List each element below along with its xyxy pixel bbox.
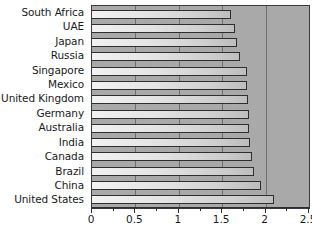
category-label: South Africa: [0, 5, 88, 19]
category-label: United Kingdom: [0, 92, 88, 106]
axis-tick-label: 1.5: [213, 214, 230, 225]
axis-tick-minor: [286, 207, 287, 211]
category-label: Canada: [0, 149, 88, 163]
category-label: United States: [0, 192, 88, 206]
bar: [91, 38, 237, 47]
axis-tick-minor: [156, 207, 157, 211]
category-label: China: [0, 178, 88, 192]
bar-chart: South AfricaUAEJapanRussiaSingaporeMexic…: [0, 0, 312, 231]
axis-tick-label: 0: [88, 214, 95, 225]
bar: [91, 167, 254, 176]
bar: [91, 24, 235, 33]
axis-tick-label: 1: [174, 214, 181, 225]
category-label: Australia: [0, 120, 88, 134]
bar: [91, 181, 261, 190]
bar-row: [92, 50, 309, 64]
bar-row: [92, 36, 309, 50]
bars-layer: [92, 6, 309, 208]
bar: [91, 138, 250, 147]
category-axis: South AfricaUAEJapanRussiaSingaporeMexic…: [0, 5, 88, 207]
axis-tick-minor: [200, 207, 201, 211]
bar-row: [92, 7, 309, 21]
category-label: Brazil: [0, 164, 88, 178]
bar: [91, 81, 247, 90]
bar-row: [92, 136, 309, 150]
bar-row: [92, 121, 309, 135]
bar-row: [92, 164, 309, 178]
category-label: UAE: [0, 19, 88, 33]
bar-row: [92, 64, 309, 78]
bar: [91, 152, 252, 161]
bar-row: [92, 150, 309, 164]
axis-tick-label: 0.5: [126, 214, 143, 225]
bar: [91, 52, 240, 61]
category-label: Japan: [0, 34, 88, 48]
bar-row: [92, 107, 309, 121]
bar-row: [92, 93, 309, 107]
category-label: India: [0, 135, 88, 149]
bar-row: [92, 21, 309, 35]
category-label: Singapore: [0, 63, 88, 77]
value-axis: 00.511.522.5: [91, 207, 309, 231]
axis-tick-minor: [243, 207, 244, 211]
category-label: Mexico: [0, 77, 88, 91]
bar: [91, 195, 274, 204]
bar: [91, 110, 249, 119]
axis-tick-label: 2: [261, 214, 268, 225]
bar: [91, 10, 231, 19]
axis-tick-minor: [113, 207, 114, 211]
plot-area: [91, 5, 310, 209]
axis-tick-label: 2.5: [300, 214, 312, 225]
bar: [91, 95, 248, 104]
category-label: Germany: [0, 106, 88, 120]
bar: [91, 67, 247, 76]
bar-row: [92, 193, 309, 207]
bar-row: [92, 78, 309, 92]
bar: [91, 124, 249, 133]
category-label: Russia: [0, 48, 88, 62]
bar-row: [92, 178, 309, 192]
